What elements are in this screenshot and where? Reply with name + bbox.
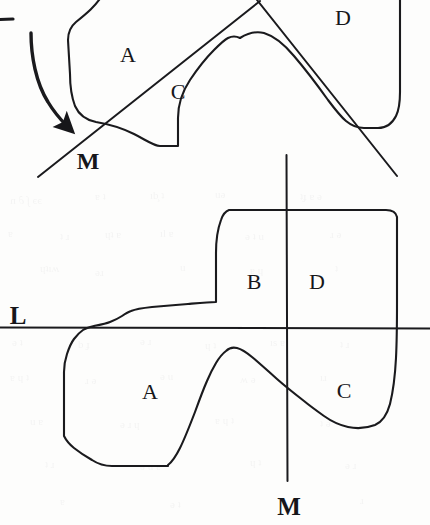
rotated-blob-left-outline [68,0,240,146]
region-label-B: B [247,271,262,293]
top-left-tick-mark [0,19,13,20]
region-label-C: C [337,380,352,402]
region-label-A: A [142,381,158,403]
line-label-L: L [10,303,27,328]
upright-blob-outline [64,210,397,466]
geometry-figure [0,0,430,525]
line-label-M: M [277,494,301,519]
region-label-D-rotated: D [335,7,351,29]
bot-line-M [287,155,288,481]
region-label-C-rotated: C [171,81,186,103]
figure-page: ээ ∫ ∂ n ɐ ʇ ıb̧ ʇ uǝ ʇɟ ɐ ǝ ɐ ʇ ɹ ɥʇ ɐ … [0,0,430,525]
rotation-arrow [31,33,67,126]
bot-line-L [0,328,430,329]
region-label-D: D [309,271,325,293]
top-line-L [257,0,397,176]
line-label-M-rotated: M [77,149,100,173]
region-label-A-rotated: A [120,44,136,66]
rotated-blob-right-outline [240,0,400,128]
